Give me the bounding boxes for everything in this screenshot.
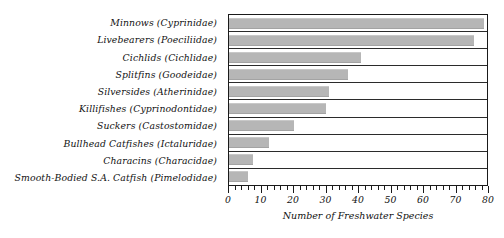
bar (229, 18, 484, 29)
bar (229, 154, 253, 165)
major-tick (488, 186, 489, 193)
x-tick-label: 40 (352, 194, 364, 205)
minor-tick (235, 186, 236, 190)
table-row (229, 15, 487, 32)
major-tick (326, 186, 327, 193)
minor-tick (371, 186, 372, 190)
category-label: Livebearers (Poeciliidae) (0, 31, 222, 48)
bar (229, 35, 474, 46)
major-tick (423, 186, 424, 193)
minor-tick (352, 186, 353, 190)
minor-tick (345, 186, 346, 190)
category-label: Suckers (Castostomidae) (0, 117, 222, 134)
minor-tick (436, 186, 437, 190)
minor-tick (306, 186, 307, 190)
minor-tick (397, 186, 398, 190)
table-row (229, 135, 487, 152)
minor-tick (475, 186, 476, 190)
table-row (229, 169, 487, 185)
minor-tick (443, 186, 444, 190)
category-label: Cichlids (Cichlidae) (0, 48, 222, 65)
major-tick (358, 186, 359, 193)
category-axis-labels: Minnows (Cyprinidae)Livebearers (Poecili… (0, 14, 222, 186)
minor-tick (339, 186, 340, 190)
minor-tick (378, 186, 379, 190)
x-tick-label: 50 (385, 194, 397, 205)
x-axis-title: Number of Freshwater Species (228, 210, 488, 221)
category-label: Silversides (Atherinidae) (0, 83, 222, 100)
table-row (229, 152, 487, 169)
x-axis-ticks (228, 186, 488, 194)
minor-tick (417, 186, 418, 190)
minor-tick (319, 186, 320, 190)
major-tick (293, 186, 294, 193)
category-label: Splitfins (Goodeidae) (0, 66, 222, 83)
table-row (229, 118, 487, 135)
bar (229, 120, 294, 131)
x-tick-label: 70 (450, 194, 462, 205)
minor-tick (462, 186, 463, 190)
bar (229, 137, 269, 148)
category-label: Minnows (Cyprinidae) (0, 14, 222, 31)
bar (229, 69, 348, 80)
major-tick (456, 186, 457, 193)
minor-tick (384, 186, 385, 190)
minor-tick (267, 186, 268, 190)
major-tick (228, 186, 229, 193)
minor-tick (449, 186, 450, 190)
major-tick (391, 186, 392, 193)
category-label: Killifishes (Cyprinodontidae) (0, 100, 222, 117)
category-label: Characins (Characidae) (0, 152, 222, 169)
minor-tick (410, 186, 411, 190)
bar-rows (229, 15, 487, 185)
x-tick-label: 60 (417, 194, 429, 205)
minor-tick (469, 186, 470, 190)
x-tick-label: 80 (482, 194, 494, 205)
x-tick-label: 10 (255, 194, 267, 205)
table-row (229, 83, 487, 100)
table-row (229, 66, 487, 83)
minor-tick (365, 186, 366, 190)
category-label: Bullhead Catfishes (Ictaluridae) (0, 134, 222, 151)
x-tick-label: 20 (287, 194, 299, 205)
minor-tick (280, 186, 281, 190)
table-row (229, 32, 487, 49)
minor-tick (313, 186, 314, 190)
bar (229, 86, 329, 97)
chart-figure: Minnows (Cyprinidae)Livebearers (Poecili… (0, 0, 504, 238)
minor-tick (332, 186, 333, 190)
bar (229, 171, 248, 182)
plot-area (228, 14, 488, 186)
table-row (229, 100, 487, 117)
x-axis-tick-labels: 01020304050607080 (228, 194, 488, 207)
bar (229, 103, 326, 114)
minor-tick (404, 186, 405, 190)
minor-tick (287, 186, 288, 190)
minor-tick (482, 186, 483, 190)
category-label: Smooth-Bodied S.A. Catfish (Pimelodidae) (0, 169, 222, 186)
major-tick (261, 186, 262, 193)
minor-tick (430, 186, 431, 190)
x-tick-label: 30 (320, 194, 332, 205)
minor-tick (248, 186, 249, 190)
bar (229, 52, 361, 63)
x-tick-label: 0 (225, 194, 231, 205)
minor-tick (300, 186, 301, 190)
minor-tick (241, 186, 242, 190)
minor-tick (254, 186, 255, 190)
table-row (229, 49, 487, 66)
minor-tick (274, 186, 275, 190)
